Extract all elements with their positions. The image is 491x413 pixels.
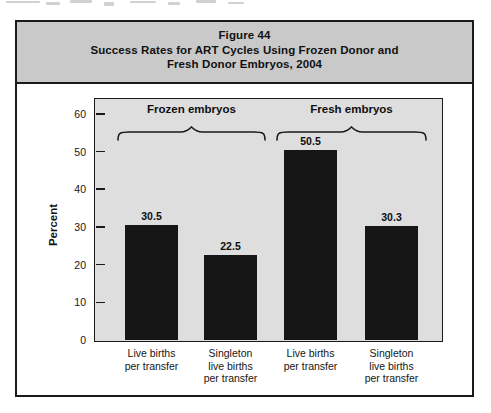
y-tick-label: 40 xyxy=(60,183,86,195)
brace-glyph xyxy=(276,126,427,142)
y-tick-label: 50 xyxy=(60,146,86,158)
y-tick-label: 60 xyxy=(60,108,86,120)
figure-title-line1: Success Rates for ART Cycles Using Froze… xyxy=(17,43,472,58)
overbrace xyxy=(276,126,427,142)
y-tick-mark xyxy=(96,188,105,190)
bar xyxy=(125,225,178,340)
cropped-text-artifact xyxy=(0,0,300,6)
bar-value-label: 22.5 xyxy=(203,240,259,253)
group-label: Fresh embryos xyxy=(282,103,422,116)
page: Figure 44 Success Rates for ART Cycles U… xyxy=(0,0,491,413)
figure-header: Figure 44 Success Rates for ART Cycles U… xyxy=(17,22,472,84)
bar xyxy=(284,150,337,340)
y-tick-mark xyxy=(96,151,105,153)
y-tick-label: 20 xyxy=(60,259,86,271)
bar xyxy=(365,226,418,340)
bar xyxy=(204,255,257,340)
brace-glyph xyxy=(117,126,266,142)
x-category-label-line: per transfer xyxy=(183,372,279,385)
y-tick-mark xyxy=(96,226,105,228)
bar-value-label: 30.5 xyxy=(124,210,180,223)
x-category-label: Singletonlive birthsper transfer xyxy=(344,347,440,385)
x-category-label-line: Singleton xyxy=(344,347,440,360)
y-tick-mark xyxy=(96,302,105,304)
y-tick-mark xyxy=(96,264,105,266)
group-label: Frozen embryos xyxy=(122,103,262,116)
figure-title-line2: Fresh Donor Embryos, 2004 xyxy=(17,57,472,72)
y-tick-mark xyxy=(96,113,105,115)
y-tick-label: 10 xyxy=(60,296,86,308)
y-tick-label: 0 xyxy=(60,334,86,346)
x-category-label-line: live births xyxy=(344,360,440,373)
bar-value-label: 30.3 xyxy=(364,211,420,224)
x-category-label-line: per transfer xyxy=(344,372,440,385)
overbrace xyxy=(117,126,266,142)
figure-number: Figure 44 xyxy=(17,28,472,43)
y-axis-title: Percent xyxy=(46,190,60,260)
y-tick-label: 30 xyxy=(60,221,86,233)
